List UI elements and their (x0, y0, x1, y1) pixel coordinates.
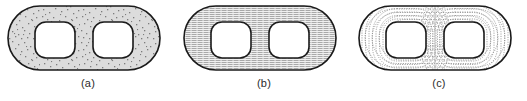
left-hole-outline (386, 22, 426, 58)
subfigure-a-drawing (0, 0, 176, 76)
subfigure-caption-b: (b) (176, 76, 352, 90)
hatch-fill-region (176, 0, 352, 76)
right-hole-outline (93, 22, 133, 58)
figure-panel: (a) (b) (0, 0, 527, 101)
subfigure-caption-c: (c) (351, 76, 527, 90)
left-hole-outline (35, 22, 75, 58)
subfigure-c: (c) (351, 0, 527, 101)
stipple-fill-region (0, 0, 176, 76)
left-hole-outline (211, 22, 251, 58)
right-hole-outline (269, 22, 309, 58)
part-cross-section-a (0, 0, 176, 76)
offset-contour-set (362, 0, 508, 76)
subfigure-b-drawing (176, 0, 352, 76)
part-cross-section-c (359, 0, 511, 76)
subfigure-c-drawing (351, 0, 527, 76)
subfigure-a: (a) (0, 0, 176, 101)
subfigure-caption-a: (a) (0, 76, 176, 90)
subfigure-b: (b) (176, 0, 352, 101)
part-cross-section-b (176, 0, 352, 76)
right-hole-outline (444, 22, 484, 58)
